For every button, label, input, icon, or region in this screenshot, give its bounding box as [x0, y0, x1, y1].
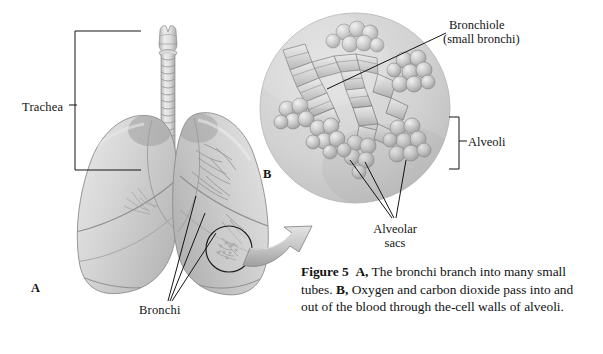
label-alveoli: Alveoli — [468, 135, 506, 149]
figure-page: Trachea Bronchi A B Bronchiole (small br… — [0, 0, 603, 354]
figure-caption: Figure 5 A, The bronchi branch into many… — [301, 263, 593, 316]
larynx-icon — [159, 26, 177, 57]
lung-left — [74, 114, 178, 294]
label-bronchiole: Bronchiole (small bronchi) — [449, 18, 520, 46]
alveoli-detail-inset — [250, 12, 462, 212]
label-bronchiole-line2: (small bronchi) — [443, 32, 520, 46]
label-alveolar-sacs: Alveolar sacs — [362, 222, 428, 250]
caption-marker-b: B, — [336, 282, 348, 297]
caption-figure-number: Figure 5 — [301, 264, 349, 279]
label-bronchi: Bronchi — [139, 303, 181, 317]
panel-label-a: A — [31, 281, 40, 295]
label-alveolar-sacs-line1: Alveolar — [373, 222, 417, 236]
bracket-right-icon — [449, 117, 467, 169]
label-trachea: Trachea — [22, 100, 63, 114]
panel-label-b: B — [263, 167, 271, 181]
label-bronchiole-line1: Bronchiole — [449, 18, 505, 32]
label-alveolar-sacs-line2: sacs — [362, 236, 428, 250]
caption-marker-a: A, — [355, 264, 368, 279]
